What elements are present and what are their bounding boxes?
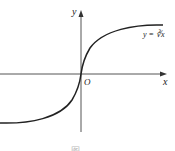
y-axis-arrow-icon <box>79 10 84 17</box>
y-axis-label: y <box>71 6 77 17</box>
function-label: y = ∛x <box>142 29 165 39</box>
x-axis-label: x <box>162 76 168 87</box>
figure-caption: 图 <box>71 146 80 151</box>
cube-root-graph: y x O y = ∛x 图 <box>0 0 175 151</box>
origin-label: O <box>84 77 91 87</box>
